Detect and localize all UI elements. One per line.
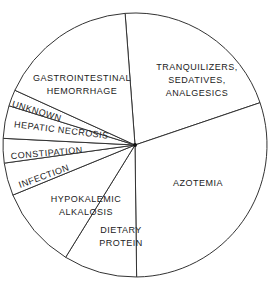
pie-chart: TRANQUILIZERS,SEDATIVES,ANALGESICSAZOTEM… [0, 0, 277, 290]
pie-center-dot [133, 143, 137, 147]
label-tranquilizers-sedatives-analgesics: TRANQUILIZERS,SEDATIVES,ANALGESICS [156, 62, 238, 98]
label-azotemia: AZOTEMIA [173, 178, 223, 188]
